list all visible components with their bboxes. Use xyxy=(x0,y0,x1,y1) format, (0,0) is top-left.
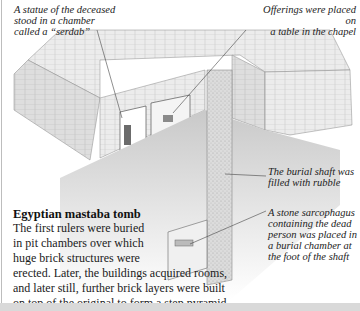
callout-serdab: A statue of the deceased stood in a cham… xyxy=(14,4,154,37)
illustration-frame: A statue of the deceased stood in a cham… xyxy=(0,0,360,303)
figure-title: Egyptian mastaba tomb xyxy=(13,207,141,222)
callout-line: a table in the chapel xyxy=(250,26,356,37)
callout-offerings: Offerings were placed on a table in the … xyxy=(250,4,356,37)
description-line: huge brick structures were xyxy=(13,251,333,266)
callout-line: stood in a chamber xyxy=(14,15,154,26)
description-line: The first rulers were buried xyxy=(13,221,333,236)
callout-line: The burial shaft was xyxy=(268,166,360,177)
description-line: in pit chambers over which xyxy=(13,236,333,251)
statue-icon xyxy=(124,125,131,145)
callout-line: called a “serdab” xyxy=(14,26,154,37)
callout-line: A statue of the deceased xyxy=(14,4,154,15)
callout-line: filled with rubble xyxy=(268,177,360,188)
description-line: erected. Later, the buildings acquired r… xyxy=(13,266,333,281)
figure-description: The first rulers were buried in pit cham… xyxy=(13,221,333,311)
callout-line: Offerings were placed on xyxy=(250,4,356,26)
description-line: and later still, further brick layers we… xyxy=(13,281,333,296)
callout-burial-shaft: The burial shaft was filled with rubble xyxy=(268,166,360,188)
bottom-divider xyxy=(0,303,360,311)
callout-line: A stone sarcophagus xyxy=(268,207,360,218)
offering-table-icon xyxy=(163,115,173,122)
